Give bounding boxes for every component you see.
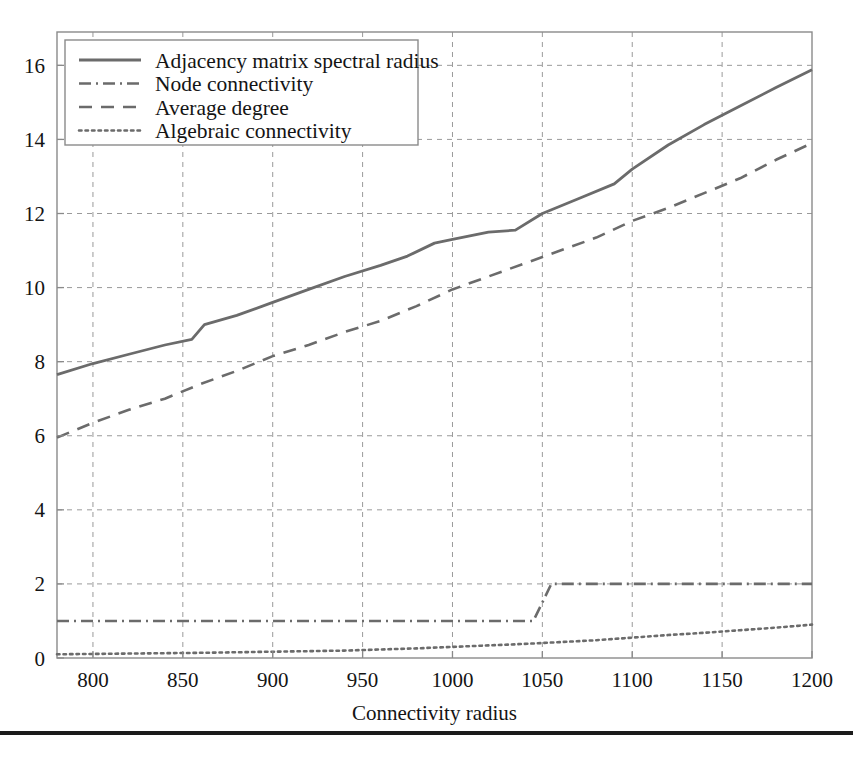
- x-tick-label: 1150: [702, 668, 743, 692]
- legend-label-4: Algebraic connectivity: [155, 119, 352, 143]
- y-tick-label: 8: [35, 350, 46, 374]
- series-line-4: [57, 625, 812, 655]
- x-tick-label: 850: [167, 668, 199, 692]
- y-tick-label: 10: [24, 276, 45, 300]
- series-line-3: [57, 143, 812, 437]
- figure-container: 8008509009501000105011001150120002468101…: [0, 0, 853, 758]
- y-tick-label: 4: [35, 498, 46, 522]
- legend-label-1: Adjacency matrix spectral radius: [155, 49, 439, 73]
- x-tick-label: 800: [77, 668, 109, 692]
- x-tick-label: 950: [347, 668, 379, 692]
- x-tick-label: 1200: [791, 668, 833, 692]
- y-tick-label: 16: [24, 54, 45, 78]
- y-tick-label: 12: [24, 202, 45, 226]
- x-tick-label: 900: [257, 668, 289, 692]
- page-rule-divider: [0, 731, 853, 735]
- x-axis-title: Connectivity radius: [352, 701, 517, 725]
- y-tick-label: 14: [24, 128, 46, 152]
- series-line-2: [57, 584, 812, 621]
- y-tick-label: 0: [35, 647, 46, 671]
- x-tick-label: 1000: [431, 668, 473, 692]
- legend-label-3: Average degree: [155, 96, 289, 120]
- x-tick-label: 1050: [521, 668, 563, 692]
- x-tick-label: 1100: [612, 668, 653, 692]
- legend-label-2: Node connectivity: [155, 72, 313, 96]
- chart-canvas: 8008509009501000105011001150120002468101…: [0, 0, 853, 758]
- y-tick-label: 6: [35, 424, 46, 448]
- y-tick-label: 2: [35, 572, 46, 596]
